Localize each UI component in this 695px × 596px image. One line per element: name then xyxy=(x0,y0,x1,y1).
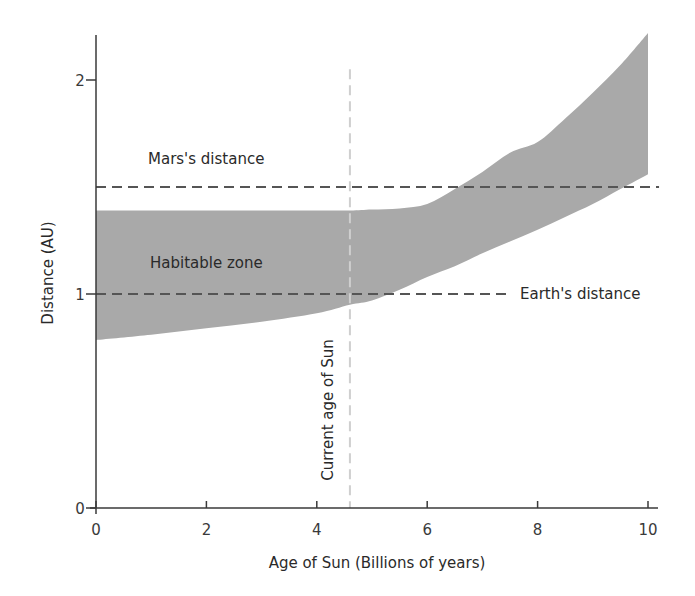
x-tick-label: 8 xyxy=(533,521,543,539)
x-tick-label: 6 xyxy=(422,521,432,539)
y-axis-ticks: 012 xyxy=(75,72,96,518)
habitable-zone-label: Habitable zone xyxy=(150,254,263,272)
x-tick-label: 2 xyxy=(202,521,212,539)
x-tick-label: 10 xyxy=(638,521,657,539)
x-axis-title: Age of Sun (Billions of years) xyxy=(269,554,486,572)
x-axis-ticks: 0246810 xyxy=(91,501,657,539)
earth-distance-label: Earth's distance xyxy=(520,285,641,303)
mars-distance-label: Mars's distance xyxy=(148,150,264,168)
y-axis-title: Distance (AU) xyxy=(39,221,57,324)
x-tick-label: 0 xyxy=(91,521,101,539)
x-tick-label: 4 xyxy=(312,521,322,539)
habitable-zone-chart: 0246810 012 Age of Sun (Billions of year… xyxy=(0,0,695,596)
y-tick-label: 0 xyxy=(75,500,85,518)
current-age-label: Current age of Sun xyxy=(319,339,337,481)
y-tick-label: 1 xyxy=(75,286,85,304)
y-tick-label: 2 xyxy=(75,72,85,90)
